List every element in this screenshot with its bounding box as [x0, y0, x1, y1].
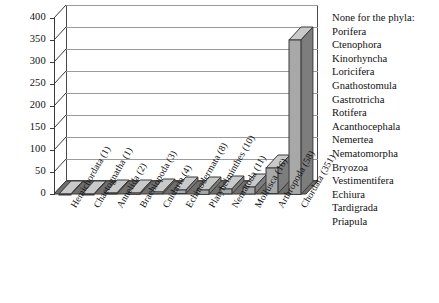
legend-item: Vestimentifera: [332, 174, 436, 188]
y-depth-connector: [54, 137, 68, 152]
legend-item: Echiura: [332, 188, 436, 202]
legend-item: Bryozoa: [332, 161, 436, 175]
gridline: [66, 71, 318, 72]
y-tick-label: 0: [16, 187, 46, 198]
y-depth-connector: [54, 159, 68, 174]
gridline: [66, 5, 318, 6]
legend-item: Priapula: [332, 215, 436, 229]
legend-item: Nematomorpha: [332, 147, 436, 161]
gridline: [66, 49, 318, 50]
gridline: [66, 137, 318, 138]
y-tick-label: 400: [16, 11, 46, 22]
legend-item: Rotifera: [332, 106, 436, 120]
chart-figure: 050100150200250300350400 Hemichordata (1…: [0, 0, 439, 303]
legend-heading: None for the phyla:: [332, 11, 436, 25]
legend-item: Acanthocephala: [332, 120, 436, 134]
legend-item-list: PoriferaCtenophoraKinorhynchaLoriciferaG…: [332, 25, 436, 229]
y-tick-label: 100: [16, 143, 46, 154]
gridline: [66, 93, 318, 94]
y-depth-connector: [54, 27, 68, 42]
y-depth-connector: [54, 93, 68, 108]
y-depth-connector: [54, 71, 68, 86]
legend-item: Porifera: [332, 25, 436, 39]
y-tick-label: 50: [16, 165, 46, 176]
legend-item: Loricifera: [332, 65, 436, 79]
y-depth-connector: [54, 49, 68, 64]
legend-item: Tardigrada: [332, 201, 436, 215]
y-tick-label: 350: [16, 33, 46, 44]
y-depth-connector: [54, 115, 68, 130]
legend-item: Kinorhyncha: [332, 52, 436, 66]
legend-item: Gastrotricha: [332, 93, 436, 107]
y-tick-label: 250: [16, 77, 46, 88]
legend-none-for-phyla: None for the phyla: PoriferaCtenophoraKi…: [332, 11, 436, 229]
legend-item: Gnathostomula: [332, 79, 436, 93]
y-tick-label: 300: [16, 55, 46, 66]
gridline: [66, 115, 318, 116]
y-tick-label: 200: [16, 99, 46, 110]
y-depth-connector: [54, 5, 68, 20]
legend-item: Ctenophora: [332, 38, 436, 52]
bar-front-face: [59, 194, 71, 195]
legend-item: Nemertea: [332, 133, 436, 147]
gridline: [66, 27, 318, 28]
y-tick-label: 150: [16, 121, 46, 132]
